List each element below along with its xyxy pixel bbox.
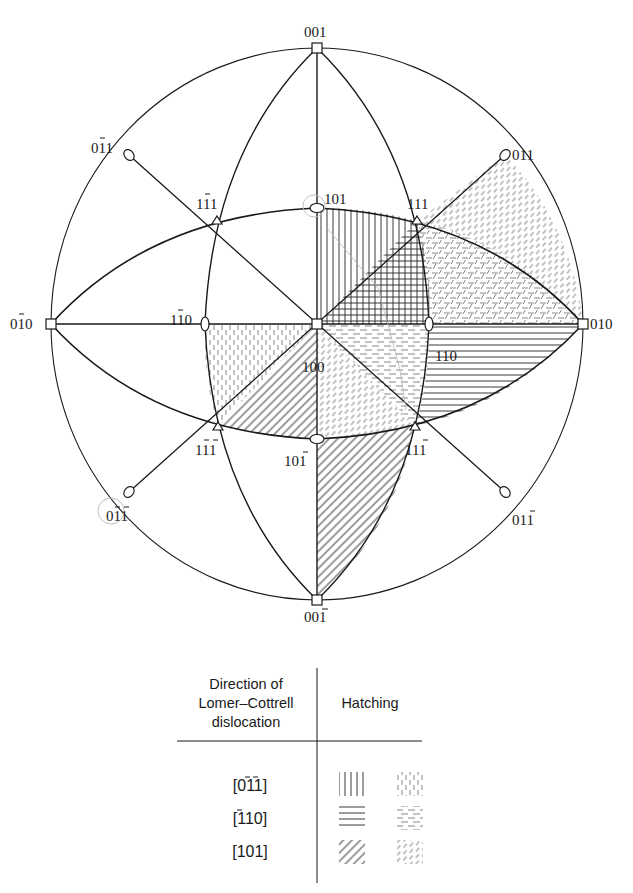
legend-direction-bar110: [110] [233, 810, 267, 827]
region-101bar-111bar-001bar [317, 426, 415, 600]
label-101bar: 101 [284, 453, 307, 469]
square-pole-100 [312, 319, 322, 329]
legend-swatch-solid-horizontal [339, 806, 365, 830]
label-010: 010 [590, 316, 613, 332]
legend-swatch-solid-vertical [339, 772, 365, 796]
label-0bar1bar1: 011 [106, 508, 128, 524]
legend-swatch-dashed-horizontal [397, 806, 423, 830]
legend-direction-101: [101] [232, 843, 268, 860]
label-1bar1bar1: 111 [195, 442, 216, 458]
legend-direction-0bar1bar1: [011] [233, 777, 267, 794]
label-100: 100 [302, 359, 325, 375]
label-001bar: 001 [304, 609, 327, 625]
legend-header-direction-line1: Direction of [209, 676, 283, 692]
legend-header-direction-line2: Lomer–Cottrell [198, 695, 293, 711]
legend-swatch-dashed-diagonal [397, 840, 423, 864]
legend-swatch-solid-diagonal [339, 840, 365, 864]
legend-header-hatching: Hatching [341, 695, 398, 711]
hatched-regions [205, 155, 583, 600]
ellipse-pole-101 [310, 204, 324, 213]
label-111bar: 111 [405, 442, 426, 458]
label-110: 110 [435, 348, 457, 364]
label-0bar11: 011 [91, 140, 113, 156]
stereographic-projection: 001 001 010 010 100 101 101 110 110 011 … [0, 0, 633, 893]
label-0bar10: 010 [10, 316, 33, 332]
label-011: 011 [512, 147, 534, 163]
ellipse-pole-101bar [310, 435, 324, 444]
ellipse-pole-1bar10 [201, 317, 209, 331]
label-1bar11: 111 [196, 196, 217, 212]
label-101: 101 [324, 191, 347, 207]
label-011bar: 011 [512, 512, 534, 528]
square-pole-001bar [312, 595, 322, 605]
square-pole-0bar10 [46, 319, 56, 329]
legend-swatch-dashed-vertical [397, 772, 423, 796]
square-pole-010 [578, 319, 588, 329]
legend-header-direction-line3: dislocation [212, 714, 281, 730]
ellipse-pole-110 [425, 317, 433, 331]
label-111: 111 [407, 196, 428, 212]
label-001: 001 [304, 24, 327, 40]
region-110-010-111bar [415, 324, 583, 426]
label-1bar10: 110 [170, 312, 192, 328]
legend-table: Direction of Lomer–Cottrell dislocation … [177, 668, 423, 883]
square-pole-001 [312, 43, 322, 53]
